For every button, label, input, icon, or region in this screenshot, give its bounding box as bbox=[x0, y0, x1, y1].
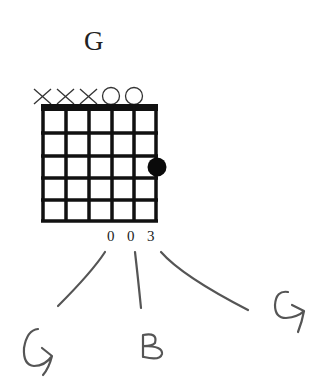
fret-number-string-4: 0 bbox=[107, 228, 115, 244]
fretboard-grid bbox=[41, 106, 158, 222]
note-label-b bbox=[143, 334, 162, 358]
fret-number-string-6: 3 bbox=[147, 228, 155, 244]
note-label-g-left bbox=[24, 329, 52, 375]
string-markers bbox=[34, 88, 143, 105]
annotation-line-left bbox=[58, 252, 105, 306]
chord-diagram: 0 0 3 bbox=[0, 0, 320, 388]
fret-number-string-5: 0 bbox=[127, 228, 135, 244]
muted-string-icon bbox=[34, 89, 51, 104]
muted-string-icon bbox=[57, 89, 74, 104]
nut bbox=[41, 104, 158, 111]
muted-string-icon bbox=[80, 89, 97, 104]
annotation-line-middle bbox=[135, 252, 141, 308]
finger-dot bbox=[148, 158, 167, 177]
note-label-g-right bbox=[275, 292, 304, 332]
open-string-icon bbox=[103, 88, 120, 105]
open-string-icon bbox=[126, 88, 143, 105]
annotation-line-right bbox=[161, 252, 248, 310]
